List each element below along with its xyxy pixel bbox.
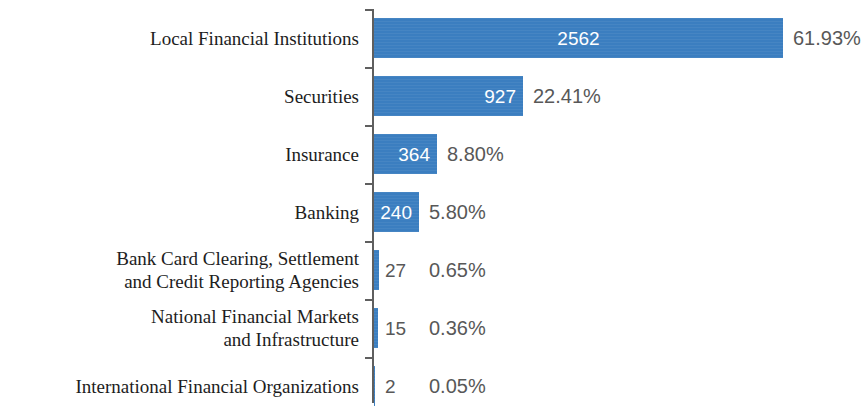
bar-row: Securities 927 22.41% xyxy=(0,67,860,125)
category-label-line2: and Credit Reporting Agencies xyxy=(124,270,359,293)
category-label: Local Financial Institutions xyxy=(0,9,366,67)
bar-value-label: 27 xyxy=(385,261,406,280)
category-label: National Financial Markets and Infrastru… xyxy=(0,299,366,357)
bar-value-label: 364 xyxy=(398,145,430,164)
percent-label: 0.65% xyxy=(429,260,486,280)
percent-label: 61.93% xyxy=(793,28,861,48)
category-label-line1: Insurance xyxy=(285,143,359,166)
bar-value-label: 2562 xyxy=(374,29,783,48)
bar-row: National Financial Markets and Infrastru… xyxy=(0,299,860,357)
bar[interactable]: 927 xyxy=(374,76,523,116)
bar[interactable] xyxy=(374,250,379,290)
category-label: Insurance xyxy=(0,125,366,183)
percent-label: 5.80% xyxy=(429,202,486,222)
bar[interactable]: 364 xyxy=(374,134,437,174)
percent-label: 0.05% xyxy=(429,376,486,396)
bar-row: Local Financial Institutions 2562 61.93% xyxy=(0,9,860,67)
category-label-line2: and Infrastructure xyxy=(223,328,359,351)
percent-label: 0.36% xyxy=(429,318,486,338)
bar-row: Banking 240 5.80% xyxy=(0,183,860,241)
percent-label: 8.80% xyxy=(447,144,504,164)
bar[interactable] xyxy=(374,366,375,406)
category-label-line1: Securities xyxy=(284,85,359,108)
bar-value-label: 927 xyxy=(484,87,516,106)
category-label: International Financial Organizations xyxy=(0,357,366,406)
category-label-line1: Bank Card Clearing, Settlement xyxy=(116,247,359,270)
category-label-line1: International Financial Organizations xyxy=(75,375,359,398)
bar-value-label: 240 xyxy=(380,203,412,222)
bar-row: Bank Card Clearing, Settlement and Credi… xyxy=(0,241,860,299)
bar[interactable]: 2562 xyxy=(374,18,783,58)
bar[interactable]: 240 xyxy=(374,192,419,232)
bar-row: Insurance 364 8.80% xyxy=(0,125,860,183)
category-label: Banking xyxy=(0,183,366,241)
percent-label: 22.41% xyxy=(533,86,601,106)
bar-row: International Financial Organizations 2 … xyxy=(0,357,860,406)
category-label-line1: Banking xyxy=(295,201,359,224)
bar-value-label: 2 xyxy=(385,377,396,396)
category-label-line1: National Financial Markets xyxy=(151,305,359,328)
category-label-line1: Local Financial Institutions xyxy=(150,27,359,50)
bar[interactable] xyxy=(374,308,378,348)
category-label: Bank Card Clearing, Settlement and Credi… xyxy=(0,241,366,299)
category-label: Securities xyxy=(0,67,366,125)
bar-value-label: 15 xyxy=(385,319,406,338)
